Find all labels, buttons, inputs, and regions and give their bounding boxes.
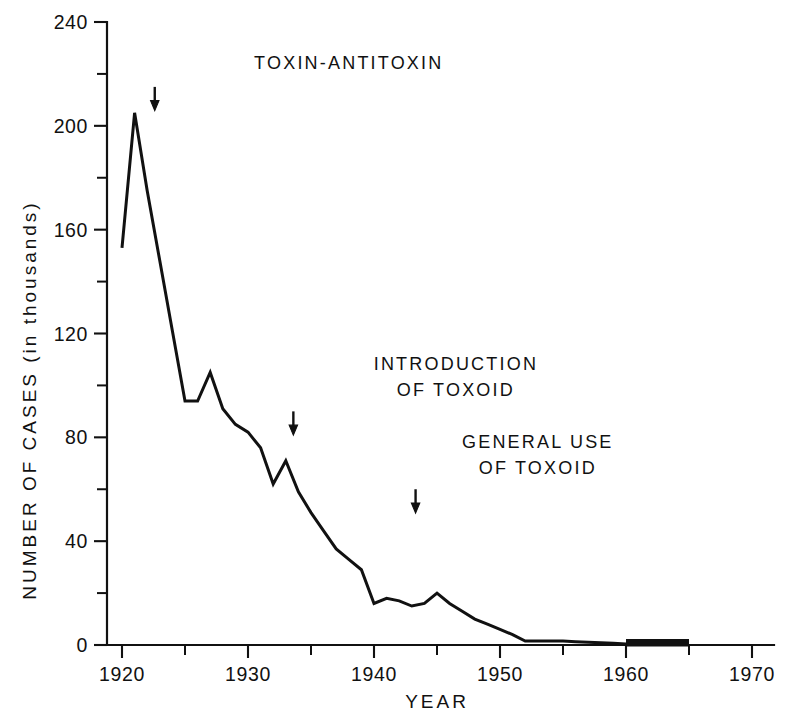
line-chart: 04080120160200240 1920193019401950196019…: [0, 0, 795, 725]
y-axis-tick-label: 200: [54, 115, 88, 137]
y-axis-tick-label: 40: [65, 530, 88, 552]
y-axis-tick-label: 80: [65, 426, 88, 448]
y-axis-tick-label: 240: [54, 11, 88, 33]
x-axis-tick-label: 1920: [99, 663, 145, 685]
x-axis-tick-label: 1950: [477, 663, 523, 685]
y-axis-tick-label: 120: [54, 323, 88, 345]
x-axis-tick-label: 1970: [729, 663, 775, 685]
annotation-label: GENERAL USE: [462, 432, 614, 452]
y-axis-tick-label: 0: [77, 634, 88, 656]
annotation-label: OF TOXOID: [397, 380, 515, 400]
x-axis-tick-label: 1930: [225, 663, 271, 685]
annotation-label: OF TOXOID: [479, 458, 597, 478]
y-axis-title: NUMBER OF CASES (in thousands): [19, 200, 40, 599]
annotation-label: INTRODUCTION: [374, 354, 538, 374]
y-axis-tick-label: 160: [54, 219, 88, 241]
x-axis-tick-label: 1940: [351, 663, 397, 685]
annotation-label: TOXIN-ANTITOXIN: [254, 53, 443, 73]
chart-container: 04080120160200240 1920193019401950196019…: [0, 0, 795, 725]
x-axis-title: YEAR: [405, 691, 469, 712]
x-axis-tick-label: 1960: [603, 663, 649, 685]
